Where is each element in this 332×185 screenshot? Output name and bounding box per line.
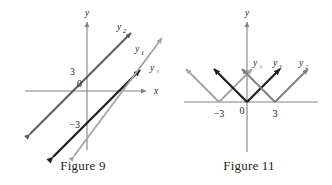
curve-label-y3-sub-fig11: 3 — [258, 63, 263, 70]
curve-label-y2-sub-fig11: 2 — [305, 63, 309, 70]
x-axis-label-fig9: x — [153, 86, 159, 96]
curve-label-y3-base-fig11: y — [252, 58, 258, 68]
curve-label-y2-base-fig11: y — [298, 58, 304, 68]
y-axis-label-fig9: y — [84, 8, 90, 18]
curve-label-y1-sub-fig11: 1 — [279, 63, 282, 70]
figure-9-caption: Figure 9 — [0, 158, 166, 174]
curve-label-y3-fig11: y 3 — [252, 58, 263, 70]
curve-label-y2-fig9: y 2 — [116, 22, 127, 34]
curve-label-y1-base-fig9: y — [134, 44, 140, 54]
curve-label-y3-base-fig9: y — [149, 63, 155, 73]
figure-9: 3 −3 0 x y y 2 y 1 y 3 Figure 9 — [0, 0, 166, 185]
origin-label-fig9: 0 — [77, 78, 82, 89]
figure-11: −3 3 0 y y 3 y 1 y 2 Figure 11 — [166, 0, 332, 185]
curve-y2-right-fig11 — [275, 69, 308, 102]
curve-label-y1-fig9: y 1 — [134, 44, 144, 56]
curve-y3-left-fig11 — [186, 69, 219, 102]
curve-label-y3-sub-fig9: 3 — [155, 68, 160, 75]
curve-label-y2-base-fig9: y — [116, 22, 122, 32]
tick-label-y-neg3-fig9: −3 — [69, 119, 80, 130]
curve-label-y1-sub-fig9: 1 — [141, 49, 144, 56]
tick-label-x-neg3-fig11: −3 — [214, 108, 225, 119]
figure-11-caption: Figure 11 — [166, 158, 332, 174]
curve-label-y2-fig11: y 2 — [298, 58, 309, 70]
curve-y1-left-fig11 — [214, 69, 247, 102]
curve-label-y2-sub-fig9: 2 — [123, 27, 127, 34]
figure-page: 3 −3 0 x y y 2 y 1 y 3 Figure 9 — [0, 0, 332, 185]
curve-y1-right-fig11 — [247, 69, 280, 102]
tick-label-x-3-fig11: 3 — [273, 108, 278, 119]
origin-label-fig11: 0 — [240, 105, 245, 116]
curve-label-y3-fig9: y 3 — [149, 63, 160, 75]
curve-label-y1-fig11: y 1 — [272, 58, 282, 70]
curve-y1-fig9 — [53, 70, 140, 157]
tick-label-y-3-fig9: 3 — [70, 66, 75, 77]
y-axis-label-fig11: y — [244, 8, 250, 18]
curve-label-y1-base-fig11: y — [272, 58, 278, 68]
